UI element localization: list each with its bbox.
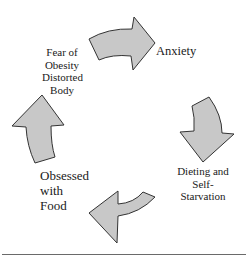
cycle-diagram: Fear of Obesity Distorted Body Anxiety D… [0, 0, 247, 260]
node-obsessed-line-2: with [40, 183, 89, 198]
node-dieting-line-1: Dieting and [174, 165, 232, 178]
curved-arrow-down-icon [180, 97, 234, 162]
node-obsessed-with-food: Obsessed with Food [40, 168, 89, 213]
curved-arrow-left-icon [89, 191, 155, 243]
bottom-divider [2, 254, 246, 255]
curved-arrow-right-icon [89, 17, 155, 70]
node-fear-line-4: Body [42, 84, 82, 97]
node-dieting-line-3: Starvation [174, 190, 232, 203]
node-fear-line-3: Distorted [42, 71, 82, 84]
node-fear-line-2: Obesity [42, 59, 82, 72]
curved-arrow-up-icon [12, 95, 64, 163]
node-fear-of-obesity: Fear of Obesity Distorted Body [42, 46, 82, 96]
node-obsessed-line-3: Food [40, 198, 89, 213]
node-obsessed-line-1: Obsessed [40, 168, 89, 183]
node-dieting-line-2: Self- [174, 178, 232, 191]
node-anxiety: Anxiety [156, 44, 196, 58]
node-fear-line-1: Fear of [42, 46, 82, 59]
node-anxiety-line-1: Anxiety [156, 44, 196, 58]
node-dieting-self-starvation: Dieting and Self- Starvation [174, 165, 232, 203]
